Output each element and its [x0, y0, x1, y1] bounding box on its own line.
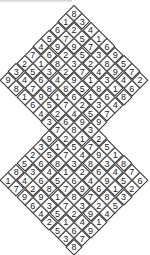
cell-digit: 8 — [69, 243, 79, 252]
